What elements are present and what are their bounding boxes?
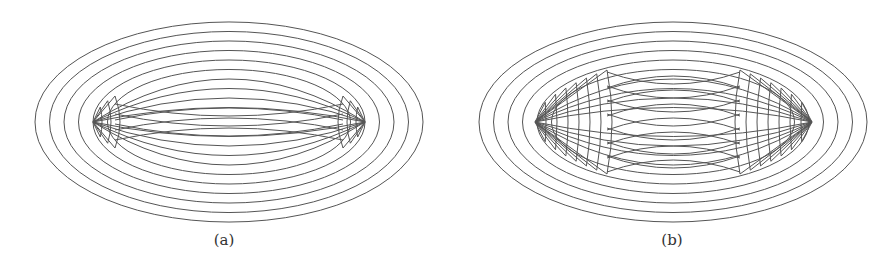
caption-a: (a) [0, 231, 448, 249]
panel-b: (b) [448, 0, 896, 259]
panel-a: (a) [0, 0, 448, 259]
ellipse-diagram-a [0, 0, 448, 259]
caption-b: (b) [448, 231, 896, 249]
ellipse-diagram-b [448, 0, 896, 259]
